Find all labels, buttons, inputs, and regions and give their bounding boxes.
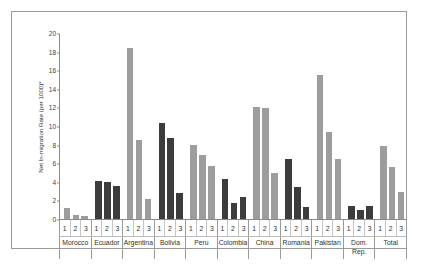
bar — [380, 146, 387, 219]
category-label: China — [249, 237, 281, 259]
bar-index-label: 3 — [270, 220, 281, 236]
bar-index-label: 1 — [281, 220, 292, 236]
bar — [73, 215, 80, 219]
bar — [335, 159, 342, 219]
category-label-line: Argentina — [124, 239, 153, 248]
bar — [231, 203, 238, 219]
bar — [81, 216, 88, 219]
bar — [208, 166, 215, 219]
bar-index-label: 2 — [102, 220, 113, 236]
bar-index-label: 1 — [155, 220, 166, 236]
bar — [326, 132, 333, 219]
chart-frame: Net In-migration Rate (per 1000)* 024681… — [11, 11, 407, 249]
category-label-table: 123123123123123123123123123123123 Morocc… — [59, 220, 407, 259]
bar — [104, 182, 111, 219]
bar-index-label: 2 — [197, 220, 208, 236]
category-label: Total — [375, 237, 407, 259]
bar-index-label: 1 — [344, 220, 355, 236]
category-label-line: Pakistan — [315, 239, 341, 248]
bar-index-label: 1 — [59, 220, 71, 236]
category-label: Morocco — [59, 237, 92, 259]
bar-index-label: 3 — [365, 220, 376, 236]
category-label-line: Rep. — [351, 248, 367, 257]
bar — [294, 187, 301, 219]
bar — [159, 123, 166, 219]
bar — [253, 107, 260, 219]
bar — [136, 140, 143, 219]
bar — [145, 199, 152, 219]
bar-series — [60, 34, 407, 219]
bar-index-label: 1 — [218, 220, 229, 236]
bar — [64, 208, 71, 219]
category-label: Dom.Rep. — [344, 237, 376, 259]
bar — [222, 179, 229, 219]
bar — [176, 193, 183, 219]
category-label: Bolivia — [155, 237, 187, 259]
bar-index-label: 1 — [92, 220, 103, 236]
bar-index-label: 1 — [123, 220, 134, 236]
plot-area: 02468101214161820 — [59, 34, 407, 220]
bar-index-label: 2 — [291, 220, 302, 236]
bar-index-row: 123123123123123123123123123123123 — [59, 220, 407, 237]
category-label: Peru — [186, 237, 218, 259]
bar-index-label: 3 — [207, 220, 218, 236]
bar-index-label: 1 — [375, 220, 386, 236]
bar — [262, 108, 269, 219]
bar-index-label: 3 — [397, 220, 408, 236]
category-name-row: MoroccoEcuadorArgentinaBoliviaPeruColomb… — [59, 237, 407, 259]
category-label-line: Bolivia — [160, 239, 180, 248]
bar-index-label: 2 — [228, 220, 239, 236]
bar-index-label: 1 — [186, 220, 197, 236]
bar-index-label: 2 — [165, 220, 176, 236]
bar — [348, 206, 355, 219]
bar-index-label: 3 — [113, 220, 124, 236]
y-axis-title: Net In-migration Rate (per 1000)* — [35, 34, 47, 220]
category-label-line: Morocco — [62, 239, 88, 248]
category-label-line: Romania — [283, 239, 310, 248]
category-label-line: Colombia — [219, 239, 248, 248]
bar — [113, 186, 120, 219]
bar-index-label: 2 — [71, 220, 82, 236]
category-label: Ecuador — [92, 237, 124, 259]
bar-index-label: 3 — [239, 220, 250, 236]
category-label-line: Ecuador — [94, 239, 119, 248]
chart-figure: Net In-migration Rate (per 1000)* 024681… — [0, 0, 421, 265]
bar-index-label: 2 — [386, 220, 397, 236]
bar — [366, 206, 373, 219]
category-label-line: Total — [384, 239, 398, 248]
bar — [240, 197, 247, 219]
category-label-line: China — [256, 239, 274, 248]
category-label-line: Peru — [194, 239, 208, 248]
bar — [95, 181, 102, 219]
bar-index-label: 1 — [312, 220, 323, 236]
bar-index-label: 3 — [333, 220, 344, 236]
category-label: Pakistan — [312, 237, 344, 259]
bar — [271, 173, 278, 219]
bar-index-label: 2 — [323, 220, 334, 236]
bar-index-label: 3 — [144, 220, 155, 236]
bar-index-label: 2 — [134, 220, 145, 236]
bar — [190, 145, 197, 219]
bar-index-label: 3 — [302, 220, 313, 236]
category-label: Romania — [281, 237, 313, 259]
bar — [398, 192, 405, 219]
bar — [303, 207, 310, 219]
bar — [317, 75, 324, 219]
category-label: Argentina — [123, 237, 155, 259]
category-label-line: Dom. — [351, 239, 367, 248]
bar-index-label: 3 — [176, 220, 187, 236]
bar — [389, 167, 396, 219]
bar-index-label: 2 — [260, 220, 271, 236]
bar — [199, 155, 206, 219]
bar — [285, 159, 292, 219]
bar — [357, 210, 364, 219]
category-label: Colombia — [218, 237, 250, 259]
bar — [167, 138, 174, 219]
bar — [127, 48, 134, 219]
bar-index-label: 3 — [81, 220, 92, 236]
bar-index-label: 1 — [249, 220, 260, 236]
bar-index-label: 2 — [354, 220, 365, 236]
